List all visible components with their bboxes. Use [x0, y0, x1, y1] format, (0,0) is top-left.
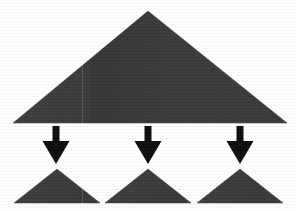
diagram-canvas: One large triangle above, three downward…: [0, 0, 296, 211]
triangle-decomposition-diagram: [0, 0, 296, 211]
